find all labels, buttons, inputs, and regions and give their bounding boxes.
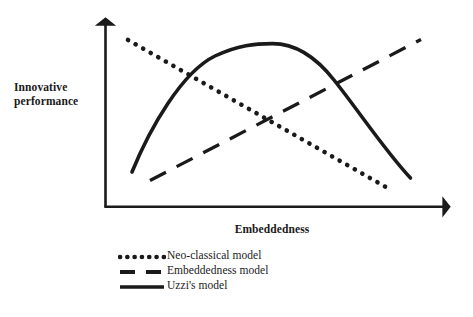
x-axis-label: Embeddedness [182,223,362,237]
legend-swatch-dashed-icon [118,264,166,279]
series-line-neo-classical-model [128,40,391,190]
chart-legend: Neo-classical model Embeddedness model U… [114,249,364,294]
legend-label-embeddedness-model: Embeddedness model [167,263,269,278]
legend-item-uzzis-model: Uzzi's model [114,279,364,294]
legend-label-uzzis-model: Uzzi's model [167,278,227,293]
legend-swatch-solid-icon [118,279,166,294]
y-axis-label: Innovative performance [14,81,96,108]
legend-swatch-dotted-icon [118,249,166,264]
series-line-embeddedness-model [150,40,421,181]
legend-item-embeddedness-model: Embeddedness model [114,264,364,279]
figure-container: Innovative performance Embeddedness Neo-… [0,0,473,317]
legend-label-neo-classical-model: Neo-classical model [167,248,262,263]
legend-item-neo-classical-model: Neo-classical model [114,249,364,264]
